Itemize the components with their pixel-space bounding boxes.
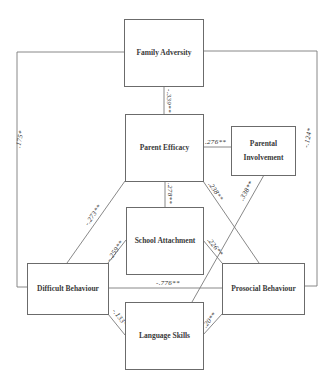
node-label: Difficult Behaviour (35, 282, 101, 296)
coef-difficult-behaviour-prosocial-behaviour: -.776** (156, 279, 180, 287)
coef-parent-efficacy-parental-involvement: .276** (205, 138, 226, 146)
node-school-attachment: School Attachment (126, 207, 204, 275)
node-label: School Attachment (133, 234, 198, 248)
coef-parental-involvement-language-skills: .338** (238, 180, 256, 202)
node-label: Parent Efficacy (138, 141, 192, 155)
coef-school-attachment-difficult-behaviour: -.259** (105, 239, 125, 263)
node-label-line2: Involvement (242, 151, 286, 165)
node-language-skills: Language Skills (125, 302, 204, 370)
node-prosocial-behaviour: Prosocial Behaviour (222, 263, 305, 315)
node-parent-efficacy: Parent Efficacy (125, 114, 204, 182)
coef-parent-efficacy-difficult-behaviour: -.273** (83, 203, 103, 227)
node-parental-involvement: Parental Involvement (231, 126, 296, 176)
edge-family-adversity-difficult-behaviour (17, 52, 124, 287)
node-difficult-behaviour: Difficult Behaviour (27, 263, 109, 315)
node-label: Prosocial Behaviour (229, 282, 298, 296)
node-label-line1: Parental (248, 137, 279, 151)
path-diagram: -.339** .175* -.124* .276** .278** -.273… (0, 0, 334, 391)
node-label: Language Skills (137, 329, 192, 343)
coef-family-adversity-difficult-behaviour: .175* (14, 130, 25, 149)
coef-parent-efficacy-school-attachment: .278** (166, 183, 174, 204)
node-label: Family Adversity (134, 46, 193, 60)
coef-family-adversity-prosocial-behaviour: -.124* (302, 127, 314, 148)
node-family-adversity: Family Adversity (124, 19, 204, 87)
coef-family-adversity-parent-efficacy: -.339** (165, 89, 173, 113)
